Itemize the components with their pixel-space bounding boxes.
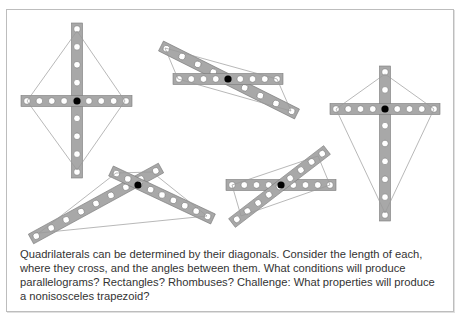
hole: [382, 140, 389, 147]
hole: [394, 106, 401, 113]
figure-parallelogram: [226, 146, 336, 228]
hole: [110, 98, 117, 105]
hole: [382, 122, 389, 129]
hole: [357, 106, 364, 113]
diagonal-bar: [380, 66, 391, 221]
pivot-point: [381, 105, 388, 112]
hole: [382, 87, 389, 94]
hole: [48, 98, 55, 105]
pivot-point: [277, 181, 284, 188]
hole: [74, 44, 81, 51]
hole: [406, 106, 413, 113]
hole: [382, 194, 389, 201]
figure-rhombus: [21, 23, 132, 178]
hole: [74, 61, 81, 68]
figure-irregular-quadrilateral: [28, 163, 215, 244]
diagonal-bar: [109, 166, 216, 224]
hole: [74, 151, 81, 158]
caption-text: Quadrilaterals can be determined by thei…: [20, 247, 440, 303]
hole: [74, 115, 81, 122]
hole: [200, 76, 207, 83]
hole: [188, 76, 195, 83]
hole: [212, 76, 219, 83]
hole: [249, 76, 256, 83]
pivot-point: [224, 75, 231, 82]
hole: [98, 98, 105, 105]
hole: [36, 98, 43, 105]
figure-parallelogram-skew: [159, 41, 300, 119]
hole: [86, 98, 93, 105]
hole: [314, 182, 321, 189]
hole: [382, 176, 389, 183]
hole: [261, 76, 268, 83]
hole: [61, 98, 68, 105]
figure-kite: [330, 66, 440, 221]
hole: [253, 182, 260, 189]
hole: [382, 158, 389, 165]
hole: [237, 76, 244, 83]
hole: [345, 106, 352, 113]
hole: [74, 79, 81, 86]
hole: [418, 106, 425, 113]
pivot-point: [73, 97, 80, 104]
hole: [241, 182, 248, 189]
pivot-point: [134, 181, 141, 188]
hole: [302, 182, 309, 189]
hole: [369, 106, 376, 113]
hole: [74, 133, 81, 140]
